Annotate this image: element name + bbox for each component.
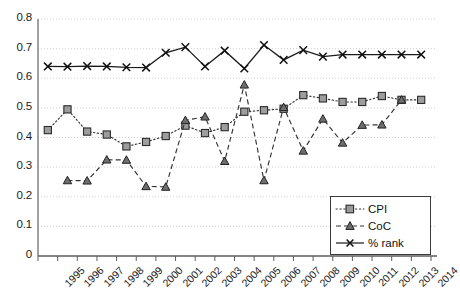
- data-point-marker: [299, 46, 307, 54]
- data-point-marker: [201, 63, 209, 71]
- chart-legend: CPI CoC % rank: [330, 196, 431, 255]
- y-axis-tick-label: 0.7: [2, 41, 32, 53]
- data-point-marker: [162, 49, 170, 57]
- data-point-marker: [240, 81, 248, 89]
- legend-item-cpi: CPI: [335, 200, 424, 217]
- legend-item-coc: CoC: [335, 217, 424, 234]
- series-line-coc: [67, 85, 401, 187]
- data-point-marker: [339, 98, 346, 105]
- data-point-marker: [201, 113, 209, 121]
- data-point-marker: [378, 92, 385, 99]
- data-point-marker: [84, 128, 91, 135]
- data-point-marker: [299, 147, 307, 155]
- legend-marker-coc-icon: [335, 219, 365, 233]
- legend-item-pct-rank: % rank: [335, 234, 424, 251]
- legend-marker-cpi-icon: [335, 202, 365, 216]
- y-axis-tick-label: 0.8: [2, 11, 32, 23]
- data-point-marker: [260, 107, 267, 114]
- data-point-marker: [260, 41, 268, 49]
- data-point-marker: [182, 43, 190, 51]
- data-point-marker: [280, 56, 288, 64]
- data-point-marker: [221, 47, 229, 55]
- data-point-marker: [64, 106, 71, 113]
- legend-marker-pct-rank-icon: [335, 236, 365, 250]
- data-point-marker: [201, 129, 208, 136]
- y-axis-tick-label: 0.2: [2, 189, 32, 201]
- data-point-marker: [142, 182, 150, 190]
- data-point-marker: [319, 115, 327, 123]
- data-point-marker: [122, 156, 130, 164]
- data-point-marker: [220, 157, 228, 165]
- data-point-marker: [241, 108, 248, 115]
- y-axis-tick-label: 0.1: [2, 218, 32, 230]
- data-point-marker: [123, 143, 130, 150]
- data-point-marker: [241, 65, 249, 73]
- legend-label-pct-rank: % rank: [368, 237, 404, 249]
- data-point-marker: [359, 98, 366, 105]
- data-point-marker: [378, 121, 386, 129]
- legend-label-cpi: CPI: [368, 203, 387, 215]
- data-point-marker: [221, 124, 228, 131]
- data-point-marker: [103, 131, 110, 138]
- data-point-marker: [418, 96, 425, 103]
- legend-label-coc: CoC: [368, 220, 391, 232]
- data-point-marker: [319, 95, 326, 102]
- data-point-marker: [260, 176, 268, 184]
- y-axis-tick-label: 0.3: [2, 159, 32, 171]
- y-axis-tick-label: 0: [2, 248, 32, 260]
- y-axis-tick-label: 0.4: [2, 130, 32, 142]
- data-point-marker: [162, 132, 169, 139]
- y-axis-tick-label: 0.5: [2, 100, 32, 112]
- data-point-marker: [300, 92, 307, 99]
- data-point-marker: [44, 126, 51, 133]
- y-axis-tick-label: 0.6: [2, 70, 32, 82]
- data-point-marker: [142, 138, 149, 145]
